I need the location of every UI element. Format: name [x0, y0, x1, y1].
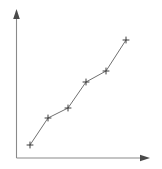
y-axis-arrow-icon	[13, 9, 20, 19]
chart-canvas	[0, 0, 162, 169]
line-chart-figure	[0, 0, 162, 169]
data-point-marker	[65, 105, 72, 112]
data-point-marker	[45, 115, 52, 122]
data-series-line	[30, 40, 126, 145]
data-point-markers-group	[27, 37, 130, 149]
data-point-marker	[103, 68, 110, 75]
data-point-marker	[83, 79, 90, 86]
data-point-marker	[123, 37, 130, 44]
x-axis-arrow-icon	[140, 155, 150, 162]
data-point-marker	[27, 142, 34, 149]
axes-group	[13, 9, 150, 161]
